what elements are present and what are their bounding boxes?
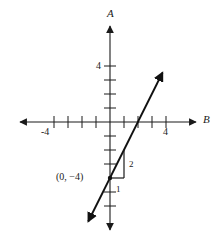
intercept-point-marker [108, 176, 112, 180]
x-tick-label-negative-4: -4 [41, 127, 49, 137]
coordinate-plane-svg [0, 0, 222, 244]
intercept-point-label: (0, −4) [56, 172, 83, 182]
x-axis-label: B [203, 114, 210, 125]
plotted-line [88, 73, 162, 222]
slope-rise-label: 2 [129, 160, 134, 169]
slope-run-label: 1 [116, 185, 121, 194]
x-tick-label-positive-4: 4 [163, 127, 168, 137]
y-tick-label-positive-4: 4 [96, 61, 101, 71]
graph-figure: A B -4 4 4 2 1 (0, −4) [0, 0, 222, 244]
y-axis-label: A [107, 8, 114, 19]
